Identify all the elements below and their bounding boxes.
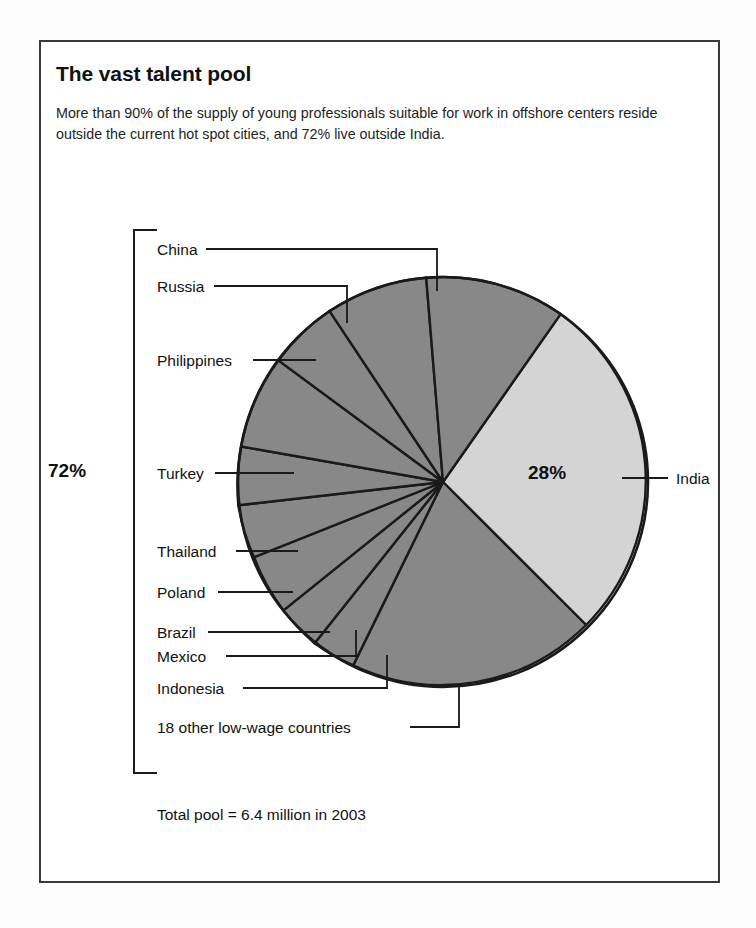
label-poland: Poland [157, 585, 205, 601]
total-pool-note: Total pool = 6.4 million in 2003 [157, 806, 366, 824]
label-china: China [157, 242, 198, 258]
label-indonesia: Indonesia [157, 681, 224, 697]
label-russia: Russia [157, 279, 204, 295]
label-turkey: Turkey [157, 466, 204, 482]
label-18-other-countries: 18 other low-wage countries [157, 720, 351, 736]
label-thailand: Thailand [157, 544, 216, 560]
leader-18-other [410, 684, 459, 727]
label-brazil: Brazil [157, 625, 196, 641]
percent-72-label: 72% [48, 461, 86, 480]
percent-28-label: 28% [528, 463, 566, 482]
label-mexico: Mexico [157, 649, 206, 665]
figure-page: The vast talent pool More than 90% of th… [0, 0, 756, 928]
label-india: India [676, 471, 710, 487]
pie-chart [0, 0, 756, 928]
bracket-72-percent [134, 230, 157, 773]
label-philippines: Philippines [157, 353, 232, 369]
